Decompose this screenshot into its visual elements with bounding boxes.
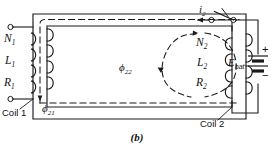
- battery-label: Ebat: [228, 57, 245, 70]
- coil2-turns-label: N2: [196, 37, 207, 51]
- flux-phi21-label: ϕ21: [42, 103, 55, 117]
- circuit-diagram: [0, 0, 274, 152]
- figure-caption: (b): [0, 132, 274, 143]
- flux-phi21-arrowhead-icon: [38, 96, 43, 102]
- flux-phi22-arrowhead-top-icon: [193, 30, 198, 35]
- coil1-turns-label: N1: [4, 33, 15, 47]
- coil1-winding-inner: [47, 29, 53, 89]
- battery-lead-top: [236, 20, 258, 54]
- coil1-name-label: Coil 1: [2, 108, 26, 118]
- switch-blade-icon: [215, 12, 234, 21]
- current-i2-label: i2: [199, 4, 206, 18]
- coil2-winding-inner: [246, 34, 252, 94]
- flux-phi21-path: [40, 20, 239, 104]
- battery-minus-label: −: [262, 70, 268, 81]
- coil2-resistance-label: R2: [196, 77, 207, 91]
- figure-container: N1 L1 R1 Coil 1 N2 L2 R2 Coil 2 i2 Ebat …: [0, 0, 274, 152]
- coil1-terminal-top-icon[interactable]: [8, 24, 13, 29]
- coil1-inductance-label: L1: [5, 55, 15, 69]
- coil2-name-label: Coil 2: [200, 119, 224, 129]
- coil2-inductance-label: L2: [197, 57, 207, 71]
- battery-plus-label: +: [262, 44, 268, 55]
- coil1-terminal-bottom-icon[interactable]: [8, 96, 13, 101]
- coil2-lead-bottom: [232, 84, 258, 113]
- flux-phi22-label: ϕ22: [119, 62, 132, 76]
- coil1-resistance-label: R1: [4, 77, 15, 91]
